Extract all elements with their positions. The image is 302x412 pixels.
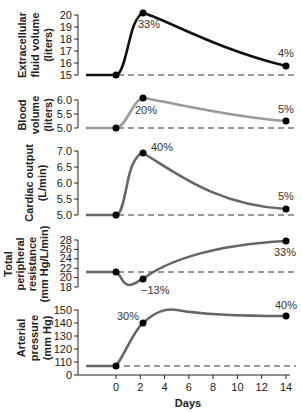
y-axis-label: Arterial [15,319,27,358]
percent-annotation: 20% [135,104,157,116]
y-axis-label: (mm Hg) [41,315,53,360]
y-tick-label: 0 [66,369,72,381]
y-tick-label: 5.5 [57,108,72,120]
data-point [140,276,147,283]
y-axis-label: Extracellular [16,11,28,78]
y-tick-label: 5.0 [57,209,72,221]
percent-annotation: 4% [278,47,294,59]
y-tick-label: 140 [54,317,72,329]
data-line [86,153,286,215]
percent-annotation: 40% [151,141,173,153]
data-point [140,150,147,157]
data-point [283,118,290,125]
y-tick-label: 7.0 [57,145,72,157]
y-axis-label: pressure [28,315,40,361]
y-tick-label: 6.5 [57,161,72,173]
panel-arterial-pressure: Arterial pressure (mm Hg) 150 140 130 12… [15,299,297,409]
y-tick-label: 6.0 [57,94,72,106]
y-tick-label: 20 [60,9,72,21]
panel-cardiac-output: Cardiac output (L/min) 7.0 6.5 6.0 5.5 5… [23,141,296,222]
y-tick-label: 15 [60,69,72,81]
x-tick-label: 8 [210,381,216,393]
data-line [86,13,286,75]
x-tick-label: 10 [231,381,243,393]
y-tick-label: 150 [54,304,72,316]
y-tick-label: 16 [60,57,72,69]
data-point [113,125,120,132]
y-axis-label: (liters) [42,98,54,132]
y-tick-label: 5.5 [57,193,72,205]
percent-annotation: 33% [138,18,160,30]
y-axis-label: (L/min) [36,164,48,201]
y-axis-label: Total [2,251,14,276]
data-point [283,206,290,213]
x-tick-label: 14 [280,381,292,393]
y-axis-label: (mm Hg/L/min) [38,225,50,302]
x-tick-label: 12 [256,381,268,393]
data-point [113,212,120,219]
y-tick-label: 18 [60,281,72,293]
percent-annotation: 5% [278,190,294,202]
panel-blood-volume: Blood volume (liters) 6.0 5.5 5.0 20% 5% [16,94,296,134]
percent-annotation: 5% [278,103,294,115]
x-axis-title: Days [175,397,201,409]
y-axis-label: volume [29,96,41,135]
data-point [140,320,147,327]
x-tick-label: 4 [162,381,168,393]
physiology-chart: Extracellular fluid volume (liters) 20 1… [0,0,302,412]
y-axis-label: Cardiac output [23,144,35,222]
y-axis-label: (liters) [42,28,54,62]
percent-annotation: 33% [274,246,296,258]
panel-extracellular-fluid-volume: Extracellular fluid volume (liters) 20 1… [16,9,296,81]
x-tick-label: 2 [137,381,143,393]
data-point [140,10,147,17]
y-axis-label: resistance [26,237,38,291]
y-tick-label: 130 [54,330,72,342]
data-point [113,72,120,79]
y-axis-label: Blood [16,99,28,130]
data-line [86,310,286,366]
y-tick-label: 19 [60,21,72,33]
data-point [113,363,120,370]
y-tick-label: 5.0 [57,122,72,134]
y-tick-label: 18 [60,33,72,45]
data-line [86,241,286,285]
panel-total-peripheral-resistance: Total peripheral resistance (mm Hg/L/min… [2,225,296,302]
x-tick-label: 6 [186,381,192,393]
x-tick-label: 0 [113,381,119,393]
data-point [283,238,290,245]
data-point [140,95,147,102]
data-point [283,63,290,70]
data-point [283,313,290,320]
percent-annotation: −13% [141,284,170,296]
data-point [113,269,120,276]
y-tick-label: 110 [54,356,72,368]
data-line [86,98,286,128]
y-tick-label: 120 [54,343,72,355]
percent-annotation: 40% [275,299,297,311]
y-tick-label: 17 [60,45,72,57]
percent-annotation: 30% [117,310,139,322]
y-tick-label: 6.0 [57,177,72,189]
y-axis-label: peripheral [14,237,26,290]
y-axis-label: fluid volume [29,13,41,78]
